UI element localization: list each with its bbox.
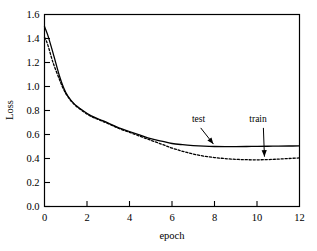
y-tick-label: 1.6 xyxy=(26,9,39,20)
loss-vs-epoch-chart: 024681012 0.00.20.40.60.81.01.21.41.6 te… xyxy=(0,0,317,251)
x-tick-label: 8 xyxy=(212,212,217,223)
annotation-label-train: train xyxy=(249,114,267,124)
y-tick-label: 0.2 xyxy=(26,177,39,188)
y-axis-tick-labels: 0.00.20.40.60.81.01.21.41.6 xyxy=(26,9,40,212)
chart-figure: 024681012 0.00.20.40.60.81.01.21.41.6 te… xyxy=(0,0,317,251)
y-tick-label: 1.2 xyxy=(26,57,39,68)
y-tick-label: 1.0 xyxy=(26,81,39,92)
y-tick-label: 1.4 xyxy=(26,33,40,44)
x-axis-label: epoch xyxy=(159,230,185,241)
x-tick-label: 2 xyxy=(84,212,89,223)
chart-background xyxy=(0,0,317,251)
y-tick-label: 0.0 xyxy=(26,201,39,212)
x-tick-label: 0 xyxy=(42,212,47,223)
y-axis-label: Loss xyxy=(4,100,15,120)
x-tick-label: 10 xyxy=(252,212,263,223)
x-tick-label: 6 xyxy=(169,212,174,223)
y-tick-label: 0.8 xyxy=(26,105,39,116)
annotation-label-test: test xyxy=(192,114,206,124)
y-tick-label: 0.6 xyxy=(26,129,39,140)
x-tick-label: 4 xyxy=(127,212,133,223)
x-tick-label: 12 xyxy=(294,212,305,223)
y-tick-label: 0.4 xyxy=(26,153,40,164)
